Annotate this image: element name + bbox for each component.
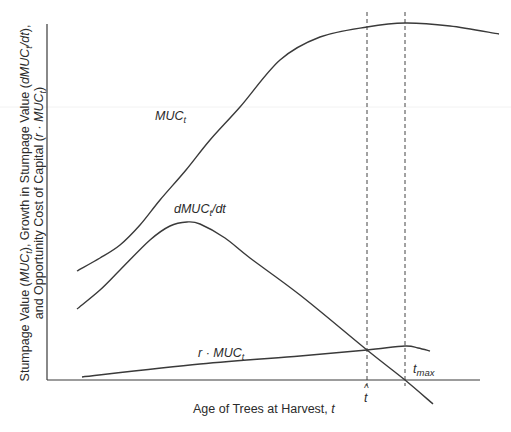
r-muc-curve xyxy=(82,346,430,377)
t-max-label: tmax xyxy=(413,362,436,378)
muc-label: MUCt xyxy=(155,109,186,125)
y-axis-label: Stumpage Value (MUCt), Growth in Stumpag… xyxy=(18,25,48,382)
r-muc-label: r · MUCt xyxy=(198,346,245,362)
dmuc-dt-label: dMUCt/dt xyxy=(174,202,226,218)
diagram-canvas: MUCt dMUCt/dt r · MUCt t ^ tmax Age of T… xyxy=(0,0,511,432)
y-axis-label-line-2: and Opportunity Cost of Capital (r · MUC… xyxy=(32,87,48,319)
x-axis-label: Age of Trees at Harvest, t xyxy=(193,402,335,416)
dmuc-dt-curve xyxy=(77,222,433,404)
t-hat-accent: ^ xyxy=(364,383,369,394)
muc-curve xyxy=(77,23,499,271)
